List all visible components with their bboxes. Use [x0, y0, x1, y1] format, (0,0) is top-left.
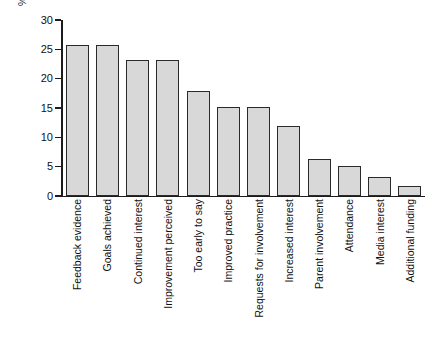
bar: [277, 126, 300, 196]
y-axis-tick-label: 10: [7, 132, 53, 143]
x-axis-label-slot: Continued interest: [124, 199, 152, 341]
x-axis-category-label: Improvement perceived: [162, 199, 173, 309]
x-axis-label-slot: Requests for involvement: [245, 199, 273, 341]
x-axis-category-label: Media interest: [374, 199, 385, 265]
x-axis-category-label: Feedback evidence: [72, 199, 83, 290]
bar-series: [62, 20, 425, 196]
bar: [247, 107, 270, 196]
y-axis-tick-label: 30: [7, 15, 53, 26]
bar: [126, 60, 149, 196]
y-axis-tick: [55, 107, 61, 109]
bar: [217, 107, 240, 196]
x-axis-category-label: Increased interest: [283, 199, 294, 282]
x-axis-category-label: Parent involvement: [314, 199, 325, 289]
x-axis-label-slot: Feedback evidence: [63, 199, 91, 341]
bar: [338, 166, 361, 196]
x-axis-label-slot: Improvement perceived: [154, 199, 182, 341]
y-axis-tick-label: 25: [7, 44, 53, 55]
y-axis-tick-label: 15: [7, 103, 53, 114]
y-axis-tick: [55, 49, 61, 51]
x-axis-category-label: Attendance: [344, 199, 355, 252]
x-axis-category-label: Improved practice: [223, 199, 234, 282]
bar: [398, 186, 421, 196]
bar: [96, 45, 119, 196]
x-axis-label-slot: Media interest: [366, 199, 394, 341]
bar: [368, 177, 391, 196]
x-axis-label-slot: Too early to say: [184, 199, 212, 341]
y-axis-tick: [55, 137, 61, 139]
x-axis-category-label: Goals achieved: [102, 199, 113, 271]
y-axis-tick-labels: 051015202530: [0, 0, 53, 341]
bar: [187, 91, 210, 196]
x-axis-category-labels: Feedback evidenceGoals achievedContinued…: [62, 199, 425, 341]
bar: [308, 159, 331, 196]
y-axis-tick-label: 0: [7, 191, 53, 202]
y-axis-tick: [55, 78, 61, 80]
x-axis-label-slot: Attendance: [335, 199, 363, 341]
x-axis-label-slot: Goals achieved: [93, 199, 121, 341]
y-axis-tick: [55, 195, 61, 197]
y-axis-tick-label: 20: [7, 73, 53, 84]
y-axis-tick: [55, 19, 61, 21]
x-axis-label-slot: Increased interest: [275, 199, 303, 341]
x-axis-category-label: Requests for involvement: [253, 199, 264, 317]
x-axis-label-slot: Additional funding: [396, 199, 424, 341]
x-axis-label-slot: Improved practice: [214, 199, 242, 341]
x-axis-category-label: Too early to say: [193, 199, 204, 273]
bar: [66, 45, 89, 196]
x-axis-category-label: Continued interest: [132, 199, 143, 284]
y-axis-tick-label: 5: [7, 161, 53, 172]
x-axis-category-label: Additional funding: [404, 199, 415, 282]
bar: [156, 60, 179, 196]
x-axis-label-slot: Parent involvement: [305, 199, 333, 341]
y-axis-tick: [55, 166, 61, 168]
bar-chart-figure: % of initiatives in survey 051015202530 …: [0, 0, 440, 341]
